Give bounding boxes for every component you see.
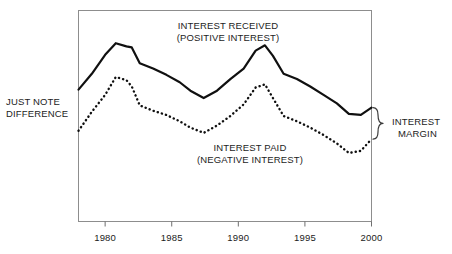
x-axis-tick-label: 1980	[85, 232, 125, 244]
x-axis-tick-label: 1995	[285, 232, 325, 244]
x-axis-tick-label: 1990	[218, 232, 258, 244]
x-axis-ticks	[105, 222, 371, 227]
annotation-received-line1: INTEREST RECEIVED	[178, 20, 279, 31]
x-axis-tick-label: 2000	[352, 232, 392, 244]
annotation-interest-paid: INTEREST PAID (NEGATIVE INTEREST)	[180, 142, 320, 166]
left-caption-line2: DIFFERENCE	[6, 108, 68, 119]
right-caption-line1: INTEREST	[392, 116, 440, 127]
annotation-received-line2: (POSITIVE INTEREST)	[177, 32, 280, 43]
annotation-interest-received: INTEREST RECEIVED (POSITIVE INTEREST)	[158, 20, 298, 44]
x-axis-tick-label: 1985	[152, 232, 192, 244]
left-caption: JUST NOTE DIFFERENCE	[6, 96, 76, 120]
annotation-paid-line2: (NEGATIVE INTEREST)	[197, 154, 303, 165]
interest-margin-brace	[373, 108, 383, 140]
chart-figure: INTEREST RECEIVED (POSITIVE INTEREST) IN…	[0, 0, 452, 254]
right-caption: INTEREST MARGIN	[392, 116, 452, 140]
right-caption-line2: MARGIN	[392, 128, 452, 140]
left-caption-line1: JUST NOTE	[6, 96, 60, 107]
annotation-paid-line1: INTEREST PAID	[214, 142, 287, 153]
